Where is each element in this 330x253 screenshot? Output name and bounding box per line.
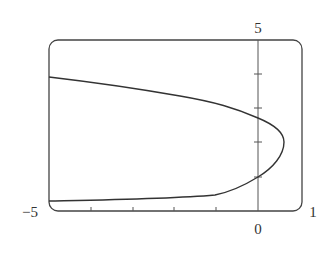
x-max-label: 1 [309, 204, 317, 220]
plot-frame [49, 40, 302, 211]
chart-canvas: 5 −5 0 1 [0, 0, 330, 253]
y-max-label: 5 [254, 20, 262, 36]
x-zero-label: 0 [254, 221, 262, 237]
curve-line [49, 77, 284, 201]
x-min-label: −5 [22, 204, 38, 220]
